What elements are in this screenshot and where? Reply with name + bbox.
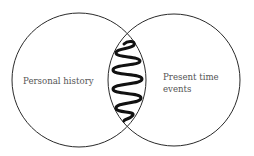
left-circle-label: Personal history	[23, 76, 94, 86]
right-circle-label-line1: Present time	[163, 72, 219, 82]
squiggle-icon	[113, 41, 142, 121]
right-circle-label-line2: events	[163, 84, 191, 94]
